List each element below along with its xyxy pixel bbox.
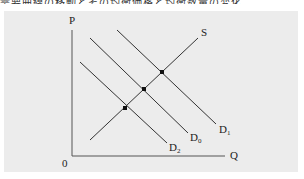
equilibrium-point [123, 106, 127, 110]
equilibrium-point [160, 70, 164, 74]
origin-label: 0 [62, 158, 68, 169]
equilibrium-point [142, 87, 146, 91]
supply-label: S [201, 27, 207, 38]
supply-demand-diagram [0, 0, 304, 179]
demand-d2-label: D2 [169, 142, 180, 155]
demand-curve-d2 [80, 62, 167, 143]
demand-d1-label: D1 [219, 124, 230, 137]
demand-d0-label: D0 [190, 132, 201, 145]
x-axis-label: Q [230, 150, 238, 161]
y-axis-label: P [69, 15, 75, 26]
